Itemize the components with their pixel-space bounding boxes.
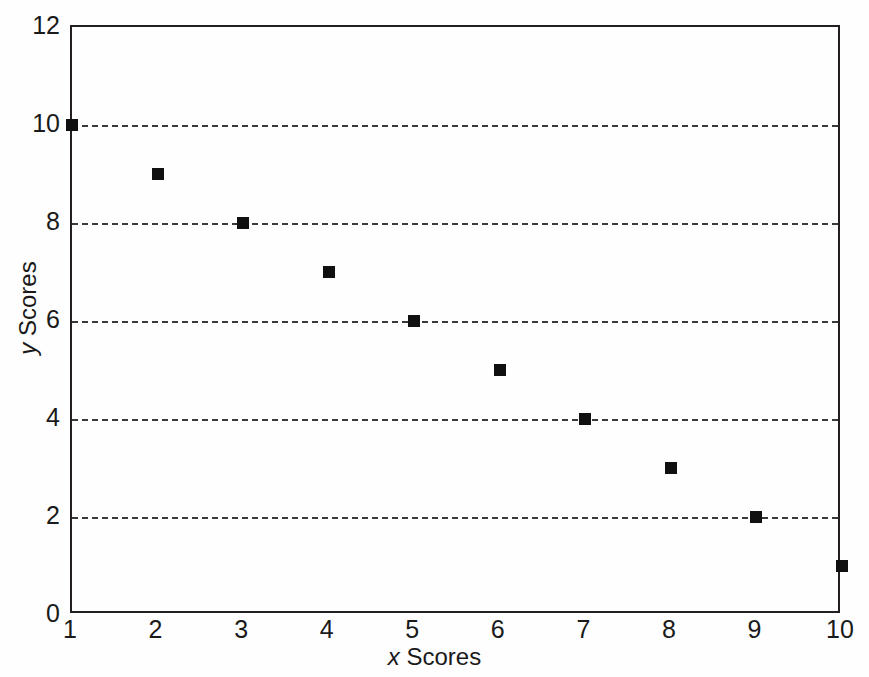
data-point [237,217,249,229]
data-point [665,462,677,474]
y-axis-title-variable: y [14,343,41,355]
x-tick-label: 9 [747,617,761,642]
x-tick-label: 6 [491,617,505,642]
y-axis-title-text: Scores [14,261,41,342]
data-point [750,511,762,523]
scatter-plot-figure: 024681012 12345678910 x Scores y Scores [0,0,869,677]
plot-area [70,25,840,613]
y-tick-label: 0 [4,601,60,626]
y-tick-label: 4 [4,405,60,430]
x-tick-label: 1 [63,617,77,642]
x-axis-title-variable: x [388,643,400,670]
x-tick-label: 10 [826,617,854,642]
data-point [579,413,591,425]
x-tick-label: 5 [405,617,419,642]
gridline-y-10 [72,125,838,127]
x-axis-title: x Scores [0,645,869,669]
data-point [152,168,164,180]
x-tick-label: 4 [320,617,334,642]
data-point [408,315,420,327]
data-point [836,560,848,572]
x-tick-label: 8 [662,617,676,642]
x-tick-label: 2 [149,617,163,642]
data-point [66,119,78,131]
gridline-y-4 [72,419,838,421]
x-tick-label: 7 [576,617,590,642]
y-tick-label: 2 [4,503,60,528]
data-point [494,364,506,376]
data-point [323,266,335,278]
y-axis-title: y Scores [16,228,40,388]
x-axis-title-text: Scores [400,643,481,670]
gridline-y-8 [72,223,838,225]
x-tick-label: 3 [234,617,248,642]
y-tick-label: 12 [4,13,60,38]
gridline-y-6 [72,321,838,323]
y-tick-label: 10 [4,111,60,136]
gridline-y-2 [72,517,838,519]
